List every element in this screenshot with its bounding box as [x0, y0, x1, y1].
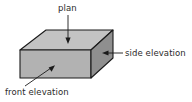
label-side-elevation: side elevation [125, 48, 186, 58]
label-front-elevation: front elevation [5, 87, 69, 97]
label-plan: plan [58, 3, 77, 13]
diagram-canvas: plan side elevation front elevation [0, 0, 192, 102]
cuboid-front-face [20, 50, 91, 78]
